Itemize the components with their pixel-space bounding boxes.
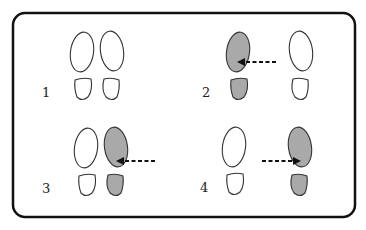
panel-1: 1 <box>42 30 126 100</box>
step-number: 3 <box>42 181 50 196</box>
step-number: 2 <box>202 85 210 100</box>
left-foot-icon <box>72 127 100 196</box>
panel-2: 2 <box>202 30 315 100</box>
footwork-diagram: 1 2 3 <box>0 0 366 230</box>
panel-4: 4 <box>200 126 314 196</box>
step-number: 4 <box>200 180 208 195</box>
panel-3: 3 <box>42 126 155 196</box>
left-foot-icon <box>68 31 96 100</box>
right-foot-icon <box>287 30 315 100</box>
right-foot-icon <box>98 30 126 100</box>
left-foot-icon <box>220 126 248 195</box>
left-foot-shaded-icon <box>224 31 252 100</box>
step-number: 1 <box>42 85 50 100</box>
